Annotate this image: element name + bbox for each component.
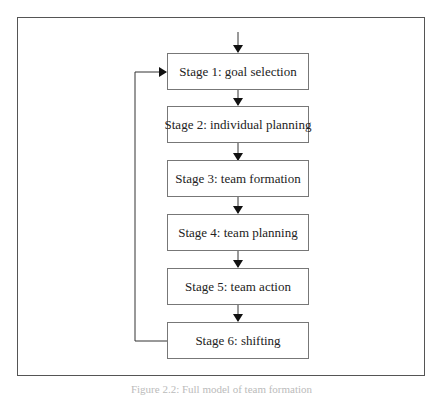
- stage-3-box: Stage 3: team formation: [167, 160, 309, 197]
- stage-2-box: Stage 2: individual planning: [167, 106, 309, 143]
- feedback-loop-arrow: [135, 72, 167, 341]
- figure-caption: Figure 2.2: Full model of team formation: [0, 383, 443, 395]
- stage-5-box: Stage 5: team action: [167, 268, 309, 305]
- stage-1-box: Stage 1: goal selection: [167, 53, 309, 90]
- stage-5-label: Stage 5: team action: [185, 279, 291, 295]
- stage-6-box: Stage 6: shifting: [167, 322, 309, 359]
- stage-4-label: Stage 4: team planning: [178, 225, 298, 241]
- stage-2-label: Stage 2: individual planning: [165, 117, 312, 133]
- stage-4-box: Stage 4: team planning: [167, 214, 309, 251]
- stage-1-label: Stage 1: goal selection: [179, 64, 296, 80]
- stage-3-label: Stage 3: team formation: [175, 171, 300, 187]
- stage-6-label: Stage 6: shifting: [195, 333, 280, 349]
